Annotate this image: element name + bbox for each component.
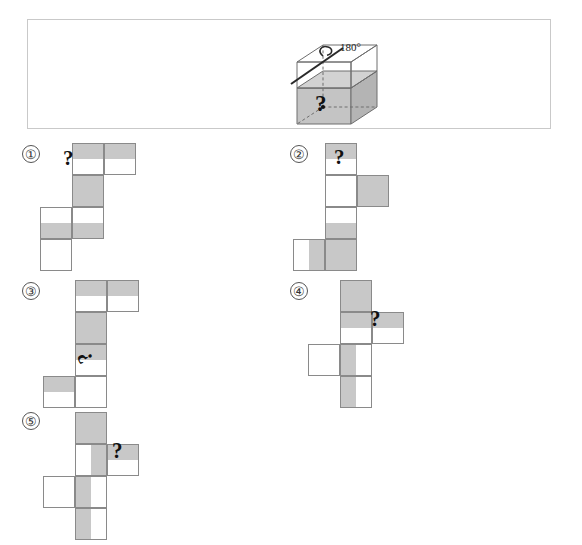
cube-question-mark: ? — [315, 92, 327, 115]
net-cell — [72, 175, 104, 207]
net-cell — [340, 376, 372, 408]
option-3-label: ③ — [22, 282, 40, 300]
cell-shading — [309, 240, 324, 270]
cell-shading — [326, 223, 356, 238]
net-cell — [340, 280, 372, 312]
puzzle-page: 180° ? ①?②?③?④¿⑤¿ — [0, 0, 582, 545]
option-2-question-mark: ? — [334, 147, 345, 168]
net-cell — [43, 376, 75, 408]
option-5-question-mark: ¿ — [112, 444, 123, 465]
option-1-question-mark: ? — [63, 148, 74, 169]
cell-shading — [73, 223, 103, 238]
cell-shading — [73, 144, 103, 159]
cell-shading — [326, 240, 356, 270]
cell-shading — [76, 281, 106, 296]
cell-shading — [91, 445, 106, 475]
net-cell — [325, 207, 357, 239]
net-cell — [75, 412, 107, 444]
net-cell — [340, 312, 372, 344]
cube-svg — [283, 40, 388, 145]
net-cell — [104, 143, 136, 175]
cell-shading — [44, 377, 74, 392]
net-cell — [107, 280, 139, 312]
net-cell — [72, 207, 104, 239]
net-cell — [75, 376, 107, 408]
net-cell — [40, 207, 72, 239]
net-cell — [293, 239, 325, 271]
net-cell — [340, 344, 372, 376]
option-4-question-mark: ¿ — [370, 312, 381, 333]
cell-shading — [341, 377, 356, 407]
cell-shading — [73, 176, 103, 206]
option-4-label: ④ — [290, 282, 308, 300]
rotation-angle-label: 180° — [340, 41, 361, 53]
net-cell — [75, 280, 107, 312]
net-cell — [75, 508, 107, 540]
cell-shading — [76, 313, 106, 343]
cell-shading — [105, 144, 135, 159]
cell-shading — [341, 345, 356, 375]
cube-diagram: 180° ? — [283, 40, 388, 145]
net-cell — [75, 476, 107, 508]
net-cell — [72, 143, 104, 175]
cell-shading — [76, 413, 106, 443]
cell-shading — [358, 176, 388, 206]
net-cell — [75, 444, 107, 476]
cell-shading — [76, 509, 91, 539]
net-cell — [43, 476, 75, 508]
option-1-label: ① — [22, 145, 40, 163]
net-cell — [75, 312, 107, 344]
question-frame: 180° ? — [27, 19, 551, 129]
cell-shading — [76, 477, 91, 507]
cell-shading — [108, 281, 138, 296]
cell-shading — [41, 223, 71, 238]
cell-shading — [341, 281, 371, 311]
net-cell — [308, 344, 340, 376]
net-cell — [325, 175, 357, 207]
option-2-label: ② — [290, 145, 308, 163]
net-cell — [357, 175, 389, 207]
option-5-label: ⑤ — [22, 412, 40, 430]
net-cell — [325, 239, 357, 271]
cell-shading — [341, 313, 371, 328]
net-cell — [40, 239, 72, 271]
